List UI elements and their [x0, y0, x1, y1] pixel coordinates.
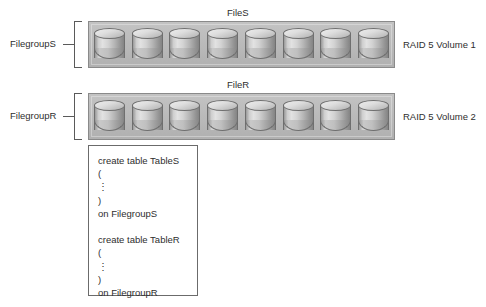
disk-cylinder-icon [358, 100, 389, 134]
disk-cylinder-icon [320, 28, 351, 62]
disk-cylinder-icon [94, 100, 125, 134]
disk-cylinder-icon [245, 100, 276, 134]
raid-label-volume-2: RAID 5 Volume 2 [403, 111, 476, 122]
code-line: ) [98, 194, 188, 207]
bracket-stem-volume-2 [63, 116, 75, 117]
disk-cylinder-icon [283, 28, 314, 62]
file-label-volume-2: FileR [227, 79, 249, 90]
code-line: on FilegroupS [98, 207, 188, 220]
disk-cylinder-icon [358, 28, 389, 62]
raid-volume-bar-2 [88, 93, 395, 140]
disk-cylinder-icon [245, 28, 276, 62]
code-line: ( [98, 246, 188, 259]
disk-cylinder-icon [132, 28, 163, 62]
code-line: ⋮ [98, 180, 188, 193]
code-line: ⋮ [98, 260, 188, 273]
code-line: ) [98, 273, 188, 286]
code-line: create table TableR [98, 233, 188, 246]
filegroup-label-volume-2: FilegroupR [10, 110, 56, 121]
disk-cylinder-icon [169, 28, 200, 62]
disk-cylinder-icon [320, 100, 351, 134]
code-line: on FilegroupR [98, 286, 188, 299]
disk-cylinder-icon [94, 28, 125, 62]
code-line-blank [98, 220, 188, 233]
bracket-stem-volume-1 [63, 44, 75, 45]
disk-cylinder-icon [169, 100, 200, 134]
disk-cylinder-icon [283, 100, 314, 134]
raid-label-volume-1: RAID 5 Volume 1 [403, 39, 476, 50]
bracket-volume-2 [74, 93, 82, 140]
filegroup-label-volume-1: FilegroupS [10, 38, 56, 49]
disk-cylinder-icon [207, 100, 238, 134]
bracket-volume-1 [74, 21, 82, 68]
file-label-volume-1: FileS [227, 7, 249, 18]
raid-volume-bar-1 [88, 21, 395, 68]
disk-cylinder-icon [132, 100, 163, 134]
sql-code-box: create table TableS ( ⋮ ) on FilegroupS … [88, 145, 198, 296]
disk-cylinder-icon [207, 28, 238, 62]
diagram-canvas: FileS FilegroupS RAID 5 Volume 1 FileR F… [0, 0, 486, 307]
code-line: create table TableS [98, 154, 188, 167]
code-line: ( [98, 167, 188, 180]
